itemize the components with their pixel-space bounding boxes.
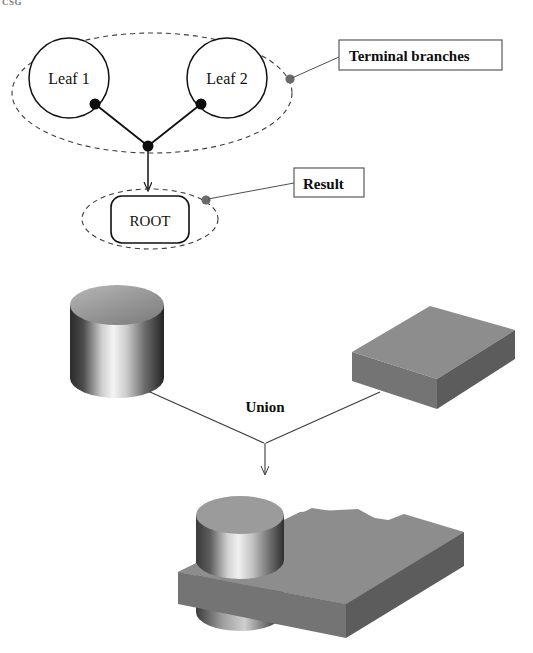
figure-canvas: CSG <box>0 0 533 653</box>
union-operation: Union <box>150 392 380 474</box>
leaf1-connector-dot <box>90 99 101 110</box>
branch-edge-leaf1 <box>95 104 148 146</box>
branch-junction-dot <box>143 141 154 152</box>
union-result-solid <box>178 496 464 638</box>
result-leader-line <box>208 183 294 199</box>
branch-edge-leaf2 <box>148 104 201 146</box>
terminal-branches-anchor-dot <box>285 74 294 83</box>
cylinder-top-face <box>70 285 164 325</box>
union-operation-label: Union <box>245 399 285 415</box>
root-label: ROOT <box>130 213 171 229</box>
page-corner-text-fragment: CSG <box>2 0 22 7</box>
result-callout-label: Result <box>303 176 344 192</box>
result-cylinder-top-face <box>196 496 284 534</box>
operand-cylinder <box>70 285 164 398</box>
leaf1-label: Leaf 1 <box>48 70 89 87</box>
terminal-branches-callout-label: Terminal branches <box>349 48 470 64</box>
terminal-branches-leader-line <box>292 57 339 78</box>
leaf2-label: Leaf 2 <box>206 70 247 87</box>
result-anchor-dot <box>201 195 210 204</box>
csg-union-illustration: Leaf 1 Leaf 2 ROOT Terminal branches Res… <box>0 0 533 653</box>
leaf2-connector-dot <box>196 99 207 110</box>
